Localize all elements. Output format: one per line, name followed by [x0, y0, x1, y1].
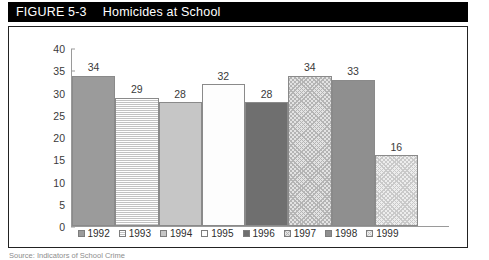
legend-label: 1996 [253, 228, 275, 239]
bar-slot[interactable]: 34 [72, 49, 115, 226]
legend-swatch-icon [243, 230, 250, 237]
chart-frame: 0510152025303540 3429283228343316 199219… [8, 26, 468, 248]
bar-value-label: 34 [72, 62, 115, 73]
legend-item-1998[interactable]: 1998 [325, 228, 357, 239]
bar-1998[interactable] [332, 80, 375, 226]
legend-item-1999[interactable]: 1999 [366, 228, 398, 239]
y-axis-tick-label: 20 [53, 132, 65, 144]
legend-label: 1993 [129, 228, 151, 239]
legend-label: 1994 [170, 228, 192, 239]
legend-item-1997[interactable]: 1997 [284, 228, 316, 239]
legend-item-1992[interactable]: 1992 [78, 228, 110, 239]
bar-value-label: 28 [159, 89, 202, 100]
bar-slot[interactable]: 28 [245, 49, 288, 226]
legend-swatch-icon [160, 230, 167, 237]
bar-slot[interactable]: 28 [159, 49, 202, 226]
legend-swatch-icon [78, 230, 85, 237]
bar-1999[interactable] [375, 155, 418, 226]
legend-label: 1995 [211, 228, 233, 239]
figure-number-label: FIGURE 5-3 [8, 5, 87, 19]
y-axis-tick-label: 10 [53, 177, 65, 189]
bar-slot[interactable]: 34 [288, 49, 331, 226]
legend-swatch-icon [119, 230, 126, 237]
legend-item-1994[interactable]: 1994 [160, 228, 192, 239]
y-axis-tick-label: 40 [53, 43, 65, 55]
legend-label: 1992 [88, 228, 110, 239]
legend-label: 1999 [376, 228, 398, 239]
figure-title: Homicides at School [87, 5, 221, 19]
bar-group: 3429283228343316 [72, 49, 418, 226]
bar-value-label: 29 [115, 84, 158, 95]
y-axis-tick-label: 30 [53, 88, 65, 100]
legend-swatch-icon [325, 230, 332, 237]
bar-value-label: 28 [245, 89, 288, 100]
bar-slot[interactable]: 29 [115, 49, 158, 226]
legend-label: 1997 [294, 228, 316, 239]
bar-slot[interactable]: 33 [332, 49, 375, 226]
legend-item-1995[interactable]: 1995 [201, 228, 233, 239]
y-axis-tick-label: 25 [53, 110, 65, 122]
figure-container: FIGURE 5-3 Homicides at School 051015202… [0, 0, 489, 260]
bar-1996[interactable] [245, 102, 288, 226]
source-caption: Source: Indicators of School Crime [9, 251, 125, 260]
bar-1993[interactable] [115, 98, 158, 226]
legend-swatch-icon [201, 230, 208, 237]
bar-1994[interactable] [159, 102, 202, 226]
bar-value-label: 34 [288, 62, 331, 73]
bar-value-label: 32 [202, 71, 245, 82]
bar-value-label: 16 [375, 142, 418, 153]
legend-swatch-icon [284, 230, 291, 237]
bar-value-label: 33 [332, 66, 375, 77]
legend-item-1993[interactable]: 1993 [119, 228, 151, 239]
legend-label: 1998 [335, 228, 357, 239]
chart-legend: 19921993199419951996199719981999 [9, 228, 467, 239]
bar-1992[interactable] [72, 76, 115, 226]
x-axis-line [71, 226, 449, 227]
y-axis-tick-label: 15 [53, 154, 65, 166]
figure-title-bar: FIGURE 5-3 Homicides at School [8, 2, 468, 22]
plot-area: 0510152025303540 3429283228343316 [71, 49, 417, 227]
legend-swatch-icon [366, 230, 373, 237]
bar-1995[interactable] [202, 84, 245, 226]
y-axis-tick-label: 35 [53, 65, 65, 77]
bar-slot[interactable]: 32 [202, 49, 245, 226]
bar-slot[interactable]: 16 [375, 49, 418, 226]
legend-item-1996[interactable]: 1996 [243, 228, 275, 239]
bar-1997[interactable] [288, 76, 331, 226]
y-axis-tick-label: 5 [59, 199, 65, 211]
